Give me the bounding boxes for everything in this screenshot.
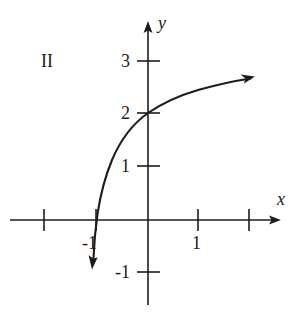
- y-tick-label-1: 1: [108, 157, 130, 175]
- y-tick-label-neg1: -1: [100, 263, 130, 281]
- panel-label: II: [41, 52, 53, 70]
- x-tick-label-neg1: -1: [82, 234, 97, 252]
- y-tick-label-3: 3: [108, 52, 130, 70]
- graph-figure: II y x 3 2 1 -1 -1 1: [0, 0, 301, 315]
- y-tick-label-2: 2: [108, 104, 130, 122]
- x-tick-label-pos1: 1: [192, 234, 201, 252]
- coordinate-plot: [0, 0, 301, 315]
- y-axis-label: y: [158, 14, 166, 32]
- x-axis-label: x: [277, 190, 285, 208]
